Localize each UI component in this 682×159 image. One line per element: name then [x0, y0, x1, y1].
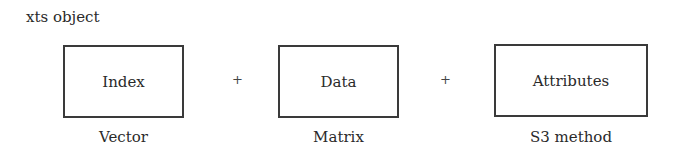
index-label: Index	[102, 73, 145, 91]
index-box: Index	[63, 45, 184, 118]
data-caption: Matrix	[278, 128, 399, 146]
data-box: Data	[278, 45, 399, 118]
data-label: Data	[321, 73, 357, 91]
plus-operator-1: +	[232, 72, 243, 87]
diagram-title: xts object	[26, 8, 100, 26]
plus-operator-2: +	[440, 72, 451, 87]
index-caption: Vector	[63, 128, 184, 146]
attributes-caption: S3 method	[494, 128, 648, 146]
attributes-box: Attributes	[494, 44, 648, 117]
attributes-label: Attributes	[533, 72, 609, 90]
